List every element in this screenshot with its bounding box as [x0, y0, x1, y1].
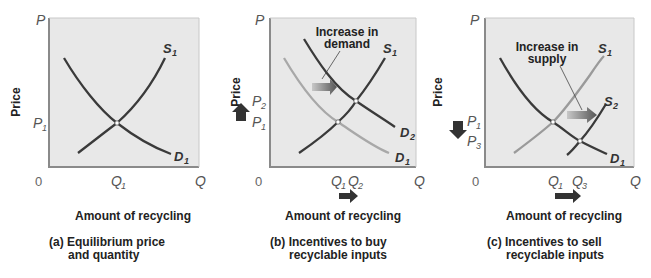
svg-text:3: 3 [582, 181, 587, 191]
plot-area [49, 18, 199, 167]
y-axis-title: Price [229, 77, 243, 107]
tick-q1: Q 1 [548, 173, 563, 191]
panel-a: P 0 Q Price P 1 Q 1 S 1 D 1 Amount of re… [9, 12, 206, 262]
tick-p3: P 3 [467, 133, 481, 151]
caption-line-1: (a) Equilibrium price [49, 235, 165, 249]
x-axis-title: Amount of recycling [75, 209, 191, 223]
y-axis-end-label: P [470, 12, 480, 28]
x-axis-end-label: Q [195, 173, 206, 189]
svg-text:1: 1 [405, 157, 410, 167]
svg-text:1: 1 [607, 48, 612, 58]
tick-p2: P 2 [252, 93, 266, 111]
svg-text:1: 1 [261, 122, 266, 132]
caption-line-2: and quantity [68, 248, 140, 262]
svg-text:D: D [395, 150, 405, 165]
svg-text:1: 1 [476, 121, 481, 131]
tick-q1: Q 1 [111, 173, 126, 191]
caption-line-2: recyclable inputs [289, 248, 387, 262]
price-down-arrow-icon [449, 121, 467, 139]
svg-text:2: 2 [612, 101, 618, 111]
svg-text:S: S [383, 41, 392, 56]
svg-text:1: 1 [341, 181, 346, 191]
equilibrium-point [115, 121, 119, 125]
tick-p1: P 1 [252, 114, 266, 132]
panel-b: P 0 Q Price P 2 P 1 Q 1 Q 2 S 1 [229, 12, 425, 262]
svg-text:3: 3 [476, 141, 481, 151]
svg-text:D: D [610, 151, 620, 166]
svg-text:S: S [163, 41, 172, 56]
tick-q1: Q 1 [331, 173, 346, 191]
svg-text:S: S [598, 41, 607, 56]
tick-p1: P 1 [33, 115, 47, 133]
equilibrium-point-2 [354, 99, 358, 103]
y-axis-end-label: P [36, 12, 46, 28]
tick-p1: P 1 [467, 113, 481, 131]
svg-text:2: 2 [357, 181, 363, 191]
svg-text:1: 1 [392, 48, 397, 58]
tick-q2: Q 2 [348, 173, 363, 191]
caption-line-1: (b) Incentives to buy [270, 235, 387, 249]
caption-line-1: (c) Incentives to sell [487, 235, 602, 249]
svg-text:2: 2 [260, 101, 266, 111]
y-axis-title: Price [9, 87, 23, 117]
y-axis-title: Price [431, 77, 445, 107]
svg-text:supply: supply [528, 52, 567, 66]
x-axis-title: Amount of recycling [285, 209, 401, 223]
origin-label: 0 [35, 174, 42, 189]
svg-text:D: D [400, 125, 410, 140]
caption-line-2: recyclable inputs [506, 248, 604, 262]
equilibrium-point-1 [336, 120, 340, 124]
svg-text:S: S [604, 94, 613, 109]
equilibrium-point-3 [578, 139, 582, 143]
svg-text:1: 1 [172, 48, 177, 58]
equilibrium-point-1 [551, 120, 555, 124]
origin-label: 0 [255, 174, 262, 189]
quantity-right-arrow-icon [339, 189, 358, 203]
figure: P 0 Q Price P 1 Q 1 S 1 D 1 Amount of re… [0, 0, 651, 278]
y-axis-end-label: P [255, 12, 265, 28]
panel-c: P 0 Q Price P 1 P 3 Q 1 Q 3 S 1 [431, 12, 641, 262]
x-axis-end-label: Q [630, 173, 641, 189]
svg-text:1: 1 [184, 156, 189, 166]
svg-text:D: D [174, 149, 184, 164]
svg-text:1: 1 [42, 123, 47, 133]
quantity-right-arrow-icon [555, 189, 581, 203]
origin-label: 0 [472, 174, 479, 189]
tick-q3: Q 3 [572, 173, 587, 191]
svg-text:1: 1 [558, 181, 563, 191]
x-axis-title: Amount of recycling [506, 209, 622, 223]
svg-text:1: 1 [620, 158, 625, 168]
x-axis-end-label: Q [414, 173, 425, 189]
svg-text:2: 2 [409, 132, 415, 142]
svg-text:1: 1 [121, 181, 126, 191]
svg-text:demand: demand [324, 37, 370, 51]
